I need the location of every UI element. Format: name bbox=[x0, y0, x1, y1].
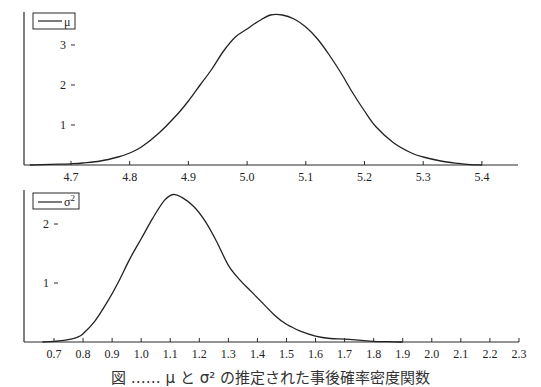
plot-sigma2: 0.70.80.91.01.11.21.31.41.51.61.71.81.92… bbox=[24, 190, 526, 361]
x-tick-label: 2.3 bbox=[511, 347, 526, 361]
x-tick-label: 1.8 bbox=[366, 347, 381, 361]
legend-label-mu: μ bbox=[64, 15, 70, 29]
x-tick-label: 5.4 bbox=[474, 170, 489, 184]
legend-superscript: 2 bbox=[70, 193, 75, 203]
x-tick-label: 1.9 bbox=[395, 347, 410, 361]
x-tick-label: 2.2 bbox=[482, 347, 497, 361]
top-y-ticks: 123 bbox=[60, 38, 75, 132]
x-tick-label: 0.8 bbox=[76, 347, 91, 361]
x-tick-label: 4.9 bbox=[181, 170, 196, 184]
x-tick-label: 1.1 bbox=[163, 347, 178, 361]
x-tick-label: 5.1 bbox=[298, 170, 313, 184]
x-tick-label: 5.3 bbox=[416, 170, 431, 184]
bottom-y-ticks: 12 bbox=[43, 217, 58, 290]
x-tick-label: 4.8 bbox=[122, 170, 137, 184]
x-tick-label: 1.4 bbox=[250, 347, 265, 361]
x-tick-label: 1.7 bbox=[337, 347, 352, 361]
x-tick-label: 4.7 bbox=[64, 170, 79, 184]
mu-density-curve bbox=[30, 14, 482, 165]
x-tick-label: 0.9 bbox=[105, 347, 120, 361]
top-legend: μ bbox=[33, 13, 75, 29]
y-tick-label: 1 bbox=[60, 118, 66, 132]
x-tick-label: 1.5 bbox=[279, 347, 294, 361]
y-tick-label: 2 bbox=[43, 217, 49, 231]
plot-mu: 4.74.84.95.05.15.25.35.4 123 μ bbox=[24, 12, 518, 184]
y-tick-label: 3 bbox=[60, 38, 66, 52]
x-tick-label: 5.2 bbox=[357, 170, 372, 184]
y-tick-label: 2 bbox=[60, 78, 66, 92]
x-tick-label: 1.0 bbox=[134, 347, 149, 361]
x-tick-label: 1.6 bbox=[308, 347, 323, 361]
x-tick-label: 5.0 bbox=[240, 170, 255, 184]
x-tick-label: 0.7 bbox=[47, 347, 62, 361]
x-tick-label: 1.3 bbox=[221, 347, 236, 361]
x-tick-label: 2.0 bbox=[424, 347, 439, 361]
figure-caption: 図 …… μ と σ² の推定された事後確率密度関数 bbox=[0, 366, 541, 387]
y-tick-label: 1 bbox=[43, 276, 49, 290]
bottom-legend: σ2 bbox=[33, 193, 79, 209]
sigma2-density-curve bbox=[42, 194, 402, 342]
x-tick-label: 1.2 bbox=[192, 347, 207, 361]
x-tick-label: 2.1 bbox=[453, 347, 468, 361]
